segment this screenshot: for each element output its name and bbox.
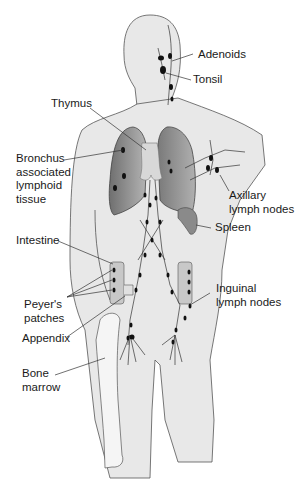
inguinal-node [184,316,187,321]
label-inguinal-lymph-nodes: Inguinal lymph nodes [216,282,281,309]
axillary-node [209,155,213,161]
label-appendix: Appendix [22,332,70,346]
label-spleen: Spleen [215,221,251,235]
label-bone-marrow: Bone marrow [22,367,60,394]
label-tonsil: Tonsil [193,73,222,87]
label-axillary-lymph-nodes: Axillary lymph nodes [229,189,294,216]
axillary-node [206,165,210,171]
label-peyers-patches: Peyer's patches [24,298,64,325]
peyers-node [113,278,116,283]
peyers-node [113,268,116,273]
label-bronchus-associated-lymphoid-tissue: Bronchus associated lymphoid tissue [16,152,71,206]
peyers-node [113,288,116,293]
axillary-node [215,167,219,173]
body-outline [70,15,265,478]
label-adenoids: Adenoids [198,48,246,62]
appendix [124,285,133,295]
adenoid-node [168,53,172,59]
label-thymus: Thymus [51,97,92,111]
adenoid-node [158,56,164,61]
tonsil-node [160,66,166,74]
label-intestine: Intestine [16,234,59,248]
